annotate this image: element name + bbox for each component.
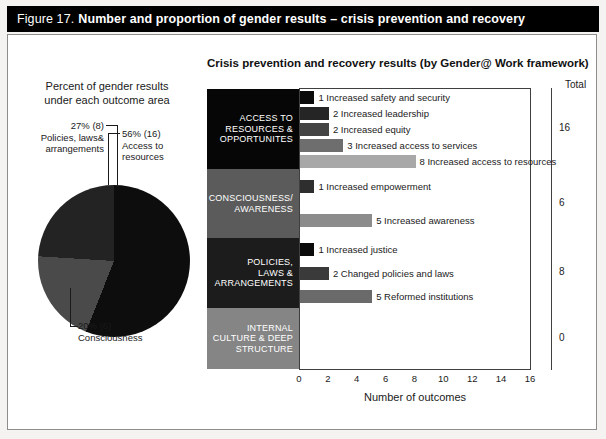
category-block-1-line-2: RESOURCES & [225,124,293,135]
bar-label-g3-2: 2 Changed policies and laws [333,267,454,280]
axis-right-line [530,88,531,370]
figure-title: Number and proportion of gender results … [74,12,525,26]
pie-callout-policies-line3: arrangements [18,143,104,155]
total-value-2: 6 [559,197,565,208]
figure-title-bar: Figure 17. Number and proportion of gend… [7,6,599,32]
total-column-divider [551,88,552,370]
bar-label-g3-3: 5 Reformed institutions [376,290,473,303]
category-block-2-line-1: CONSCIOUSNESS/ [209,193,293,204]
x-tick-6: 6 [383,373,388,384]
pie-chart-graphic [38,185,190,337]
pie-callout-policies: 27% (8) Policies, laws& arrangements [18,120,104,155]
total-value-1: 16 [559,122,570,133]
pie-callout-policies-line2: Policies, laws& [18,132,104,144]
bar-g1-4 [300,139,343,152]
axis-top-line [299,88,531,89]
pie-callout-access-line2: Access to [122,140,192,152]
category-block-3-line-1: POLICIES, [247,257,293,268]
pie-heading-line-1: Percent of gender results [14,79,200,93]
category-block-1: ACCESS TORESOURCES &OPPORTUNITES [207,89,299,169]
category-block-1-line-3: OPPORTUNITES [220,134,293,145]
category-block-3-line-2: LAWS & [258,268,293,279]
category-block-4-line-1: INTERNAL [247,323,293,334]
pie-callout-policies-value: 27% (8) [18,120,104,132]
pie-callout-consciousness: 20% (6) Consciousness [78,320,168,343]
x-tick-4: 4 [354,373,359,384]
pie-callout-consciousness-line2: Consciousness [78,332,168,344]
x-tick-12: 12 [467,373,478,384]
total-column-header: Total [565,79,586,90]
bar-g3-3 [300,290,372,303]
leader-line-policies-vertical [117,125,118,187]
leader-line-access-horizontal [108,133,120,134]
x-axis-label: Number of outcomes [299,391,531,403]
bar-g3-2 [300,267,329,280]
bar-label-g3-1: 1 Increased justice [318,243,397,256]
category-block-4-line-3: STRUCTURE [236,344,293,355]
total-value-3: 8 [559,266,565,277]
x-tick-2: 2 [325,373,330,384]
bar-label-g1-2: 2 Increased leadership [333,107,429,120]
pie-callout-access-value: 56% (16) [122,128,192,140]
category-block-3: POLICIES,LAWS &ARRANGEMENTS [207,238,299,308]
pie-callout-consciousness-value: 20% (6) [78,320,168,332]
pie-chart-heading: Percent of gender results under each out… [14,79,200,107]
pie-chart [38,185,190,337]
axis-x-line [299,369,531,370]
figure-number: Figure 17. [7,12,74,26]
x-tick-14: 14 [496,373,507,384]
category-block-3-line-3: ARRANGEMENTS [215,278,293,289]
bar-chart-plot: ACCESS TORESOURCES &OPPORTUNITESCONSCIOU… [207,88,562,370]
bar-g1-5 [300,155,416,168]
leader-line-access-vertical [108,133,109,185]
category-block-4: INTERNALCULTURE & DEEPSTRUCTURE [207,308,299,369]
bar-label-g2-2: 5 Increased awareness [376,214,474,227]
bar-chart-title: Crisis prevention and recovery results (… [207,57,589,69]
category-block-2: CONSCIOUSNESS/AWARENESS [207,169,299,238]
category-block-1-line-1: ACCESS TO [240,113,293,124]
bar-label-g1-4: 3 Increased access to services [347,139,477,152]
pie-callout-access: 56% (16) Access to resources [122,128,192,163]
pie-callout-access-line3: resources [122,151,192,163]
bar-g1-1 [300,91,314,104]
bar-g1-3 [300,123,329,136]
bar-g1-2 [300,107,329,120]
x-tick-16: 16 [525,373,536,384]
bar-label-g1-3: 2 Increased equity [333,123,411,136]
bar-g2-1 [300,180,314,193]
x-tick-10: 10 [438,373,449,384]
bar-label-g2-1: 1 Increased empowerment [318,180,430,193]
category-block-4-line-2: CULTURE & DEEP [213,333,293,344]
leader-line-consciousness-horizontal [70,326,78,327]
x-tick-0: 0 [296,373,301,384]
x-tick-8: 8 [412,373,417,384]
pie-heading-line-2: under each outcome area [14,93,200,107]
total-value-4: 0 [559,332,565,343]
bar-g2-2 [300,214,372,227]
figure-page: Figure 17. Number and proportion of gend… [0,0,606,439]
leader-line-consciousness-vertical [70,288,71,326]
bar-label-g1-1: 1 Increased safety and security [318,91,450,104]
category-block-2-line-2: AWARENESS [234,204,293,215]
bar-g3-1 [300,243,314,256]
bar-label-g1-5: 8 Increased access to resources [420,155,557,168]
